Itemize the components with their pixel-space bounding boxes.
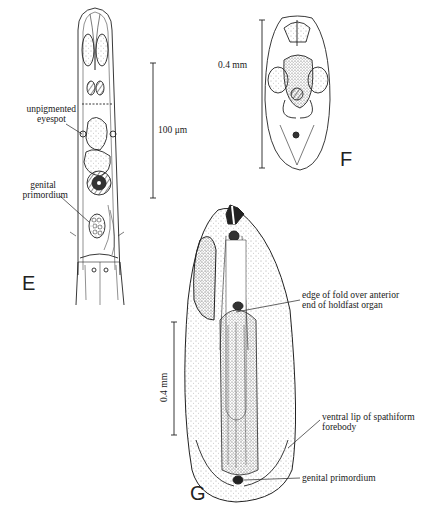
scale-bar-g bbox=[171, 322, 177, 435]
specimen-e bbox=[70, 8, 124, 305]
scale-label-e: 100 μm bbox=[158, 125, 187, 135]
label-ventral-lip-2: forebody bbox=[322, 422, 356, 432]
panel-letter-g: G bbox=[190, 482, 206, 505]
panel-letter-f: F bbox=[340, 148, 352, 171]
leader-eyespot bbox=[66, 124, 82, 134]
figure-illustration bbox=[0, 0, 438, 508]
label-fold-1: edge of fold over anterior bbox=[302, 290, 399, 300]
label-genital-g: genital primordium bbox=[302, 473, 376, 483]
label-eyespot: eyespot bbox=[4, 114, 66, 124]
scale-bar-e bbox=[150, 63, 156, 198]
scale-bar-f bbox=[259, 20, 265, 168]
label-primordium-e: primordium bbox=[4, 190, 68, 200]
specimen-f bbox=[265, 16, 330, 170]
label-fold-2: end of holdfast organ bbox=[302, 300, 383, 310]
specimen-g bbox=[185, 205, 296, 502]
scale-label-g: 0.4 mm bbox=[159, 373, 169, 402]
scale-label-f: 0.4 mm bbox=[218, 60, 247, 70]
panel-letter-e: E bbox=[22, 272, 35, 295]
label-unpigmented: unpigmented bbox=[4, 104, 76, 114]
label-genital-e: genital bbox=[4, 180, 56, 190]
label-ventral-lip-1: ventral lip of spathiform bbox=[322, 412, 415, 422]
